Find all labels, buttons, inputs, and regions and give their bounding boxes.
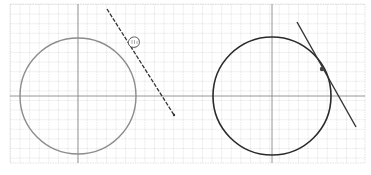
tangent-point <box>320 67 324 71</box>
tangent-line-diagram: Two grid panels: left shows a circle wit… <box>0 0 371 175</box>
left-line-endpoint <box>173 114 175 116</box>
hand-cursor-icon <box>128 37 139 47</box>
